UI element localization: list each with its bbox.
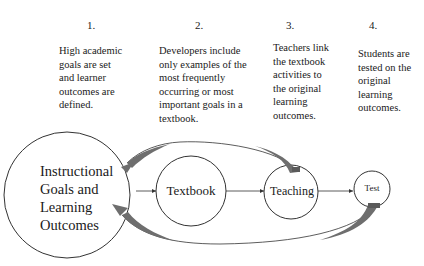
- feedback-arrow-test-to-goals: [112, 203, 380, 244]
- feedback-arrow-teaching-to-goals: [121, 142, 300, 173]
- textbook-node-label: Textbook: [156, 183, 226, 199]
- test-node-label: Test: [354, 183, 390, 193]
- goals-node-label: Instructional Goals and Learning Outcome…: [40, 162, 113, 234]
- teaching-node-label: Teaching: [264, 184, 320, 199]
